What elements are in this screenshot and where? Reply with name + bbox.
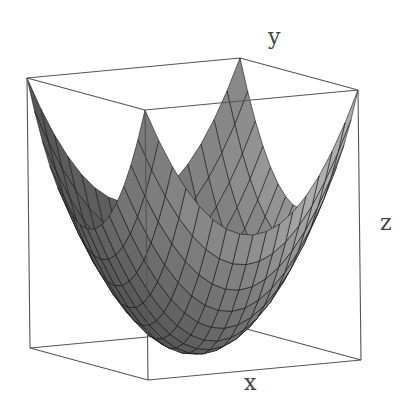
y-axis-label: y [268,26,280,48]
surface-patch [325,123,345,181]
box-edge [358,90,361,360]
box-edge [30,348,148,380]
box-edge [27,58,240,78]
surface-plot [0,0,414,412]
box-edge [243,328,361,360]
box-edge [240,58,358,90]
box-edge [27,78,30,348]
surface-patch [27,78,48,142]
z-axis-label: z [380,212,392,234]
x-axis-label: x [244,372,256,394]
box-edge [27,78,145,110]
paraboloid-surface [27,58,358,354]
surface-patch [338,90,358,153]
